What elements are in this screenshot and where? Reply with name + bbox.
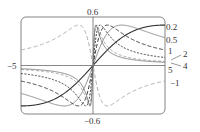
curve-label: 0.2 bbox=[166, 22, 177, 32]
y-min-label: −0.6 bbox=[84, 116, 101, 126]
curve-label: 4 bbox=[183, 61, 188, 71]
curve-label: −1 bbox=[170, 78, 180, 88]
chart: 0.20.51245−1 0.6 −0.6 −5 bbox=[0, 0, 200, 132]
label-leader-line bbox=[171, 55, 181, 60]
curve-label: 0.5 bbox=[166, 35, 178, 45]
curve-labels: 0.20.51245−1 bbox=[166, 22, 188, 88]
x-min-label: −5 bbox=[7, 61, 17, 71]
curve-label: 5 bbox=[168, 65, 173, 75]
curve-label: 2 bbox=[183, 49, 188, 59]
curve-label: 1 bbox=[168, 46, 173, 56]
y-max-label: 0.6 bbox=[87, 7, 99, 17]
label-leader-line bbox=[171, 63, 181, 66]
